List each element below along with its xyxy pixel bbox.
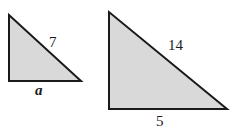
large-triangle-shape	[109, 12, 227, 109]
large-base-label: 5	[156, 113, 164, 129]
small-triangle-shape	[9, 15, 81, 81]
small-base-label: a	[35, 82, 43, 98]
large-triangle: 14 5	[109, 12, 227, 129]
small-hypotenuse-label: 7	[49, 34, 57, 50]
small-triangle: 7 a	[9, 15, 81, 98]
large-hypotenuse-label: 14	[168, 37, 184, 53]
similar-triangles-diagram: 7 a 14 5	[0, 0, 238, 129]
